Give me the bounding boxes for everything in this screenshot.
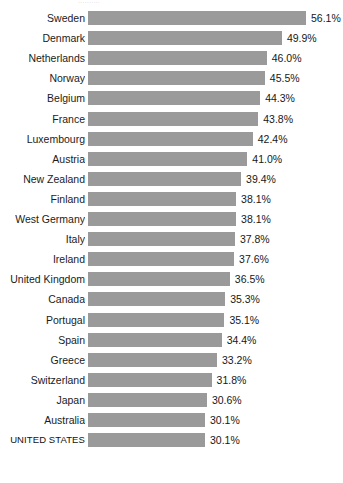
bar-category-label: Norway	[0, 71, 85, 85]
bar	[88, 393, 207, 407]
bar	[88, 433, 205, 447]
bar	[88, 313, 224, 327]
chart-row: Austria41.0%	[0, 152, 343, 166]
bar-category-label: New Zealand	[0, 172, 85, 186]
bar	[88, 152, 247, 166]
bar	[88, 112, 258, 126]
chart-row: Portugal35.1%	[0, 313, 343, 327]
bar-category-label: Austria	[0, 152, 85, 166]
bar-value-label: 44.3%	[265, 91, 295, 105]
chart-row: Japan30.6%	[0, 393, 343, 407]
bar-value-label: 49.9%	[287, 31, 317, 45]
bar-category-label: Canada	[0, 292, 85, 306]
bar-category-label: France	[0, 112, 85, 126]
bar	[88, 51, 267, 65]
bar-category-label: Belgium	[0, 91, 85, 105]
chart-row: Ireland37.6%	[0, 252, 343, 266]
bar-value-label: 43.8%	[263, 112, 293, 126]
bar-value-label: 42.4%	[258, 132, 288, 146]
bar-value-label: 37.6%	[239, 252, 269, 266]
bar	[88, 91, 260, 105]
bar-value-label: 46.0%	[272, 51, 302, 65]
bar-category-label: Finland	[0, 192, 85, 206]
bar	[88, 252, 234, 266]
chart-row: Netherlands46.0%	[0, 51, 343, 65]
bar-category-label: Sweden	[0, 11, 85, 25]
bar	[88, 132, 253, 146]
bar-value-label: 30.1%	[210, 413, 240, 427]
bar	[88, 31, 282, 45]
bar-value-label: 30.6%	[212, 393, 242, 407]
bar-category-label: Spain	[0, 333, 85, 347]
bar-category-label: Australia	[0, 413, 85, 427]
bar-value-label: 34.4%	[227, 333, 257, 347]
chart-plot-area: Sweden56.1%Denmark49.9%Netherlands46.0%N…	[0, 0, 343, 483]
bar-value-label: 38.1%	[241, 192, 271, 206]
chart-row: Canada35.3%	[0, 292, 343, 306]
bar-category-label: Japan	[0, 393, 85, 407]
bar-value-label: 35.1%	[229, 313, 259, 327]
bar-chart: ·········· Sweden56.1%Denmark49.9%Nether…	[0, 0, 343, 483]
bar-category-label: Switzerland	[0, 373, 85, 387]
bar	[88, 232, 235, 246]
chart-row: Sweden56.1%	[0, 11, 343, 25]
bar	[88, 413, 205, 427]
bar-category-label: West Germany	[0, 212, 85, 226]
bar-category-label: Italy	[0, 232, 85, 246]
bar-value-label: 38.1%	[241, 212, 271, 226]
bar	[88, 11, 306, 25]
bar	[88, 333, 222, 347]
chart-row: Australia30.1%	[0, 413, 343, 427]
bar-category-label: Ireland	[0, 252, 85, 266]
chart-row: UNITED STATES30.1%	[0, 433, 343, 447]
bar	[88, 292, 225, 306]
bar-value-label: 45.5%	[270, 71, 300, 85]
chart-row: Norway45.5%	[0, 71, 343, 85]
chart-row: Spain34.4%	[0, 333, 343, 347]
bar-category-label: Portugal	[0, 313, 85, 327]
bar	[88, 192, 236, 206]
bar-value-label: 37.8%	[240, 232, 270, 246]
chart-row: Belgium44.3%	[0, 91, 343, 105]
bar-value-label: 31.8%	[217, 373, 247, 387]
chart-row: Greece33.2%	[0, 353, 343, 367]
bar	[88, 172, 241, 186]
chart-row: France43.8%	[0, 112, 343, 126]
bar	[88, 272, 230, 286]
bar	[88, 373, 212, 387]
bar-value-label: 41.0%	[252, 152, 282, 166]
bar	[88, 353, 217, 367]
bar-category-label: United Kingdom	[0, 272, 85, 286]
chart-row: United Kingdom36.5%	[0, 272, 343, 286]
bar-value-label: 39.4%	[246, 172, 276, 186]
bar-category-label: Greece	[0, 353, 85, 367]
bar-value-label: 33.2%	[222, 353, 252, 367]
bar-value-label: 36.5%	[235, 272, 265, 286]
bar-category-label: Denmark	[0, 31, 85, 45]
bar-category-label: Luxembourg	[0, 132, 85, 146]
bar-value-label: 30.1%	[210, 433, 240, 447]
chart-row: Denmark49.9%	[0, 31, 343, 45]
chart-row: New Zealand39.4%	[0, 172, 343, 186]
bar	[88, 212, 236, 226]
chart-row: Finland38.1%	[0, 192, 343, 206]
chart-row: West Germany38.1%	[0, 212, 343, 226]
bar	[88, 71, 265, 85]
bar-value-label: 56.1%	[311, 11, 341, 25]
chart-row: Italy37.8%	[0, 232, 343, 246]
bar-value-label: 35.3%	[230, 292, 260, 306]
chart-row: Switzerland31.8%	[0, 373, 343, 387]
bar-category-label: UNITED STATES	[0, 433, 85, 447]
bar-category-label: Netherlands	[0, 51, 85, 65]
chart-row: Luxembourg42.4%	[0, 132, 343, 146]
